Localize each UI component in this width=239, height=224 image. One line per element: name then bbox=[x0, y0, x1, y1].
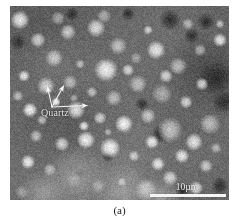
micrograph-panel: Quartz 10µm bbox=[10, 6, 229, 200]
figure-caption: (a) bbox=[0, 203, 239, 217]
figure-root: Quartz 10µm (a) bbox=[0, 0, 239, 224]
sem-micrograph-image bbox=[10, 6, 229, 200]
